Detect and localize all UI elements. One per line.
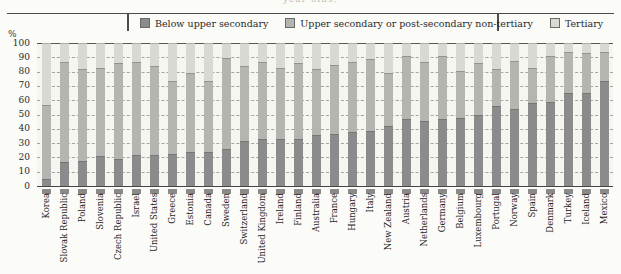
x-label-turkey: Turkey: [563, 193, 573, 265]
segment-upper-secondary-or-post-secondary-non-tertiary: [168, 82, 177, 155]
segment-below-upper-secondary: [564, 94, 573, 186]
bar-slot-estonia: [181, 43, 199, 186]
x-axis-line: [37, 186, 613, 187]
segment-below-upper-secondary: [420, 122, 429, 186]
stacked-bar-austria: [402, 43, 411, 186]
x-label-new-zealand: New Zealand: [383, 193, 393, 265]
stacked-bar-canada: [204, 43, 213, 186]
stacked-bar-israel: [132, 43, 141, 186]
segment-tertiary: [186, 43, 195, 74]
segment-tertiary: [564, 43, 573, 53]
segment-upper-secondary-or-post-secondary-non-tertiary: [150, 67, 159, 156]
segment-tertiary: [528, 43, 537, 69]
stacked-bar-spain: [528, 43, 537, 186]
bar-slot-greece: [163, 43, 181, 186]
x-label-korea: Korea: [41, 193, 51, 265]
legend: Below upper secondary Upper secondary or…: [140, 15, 603, 31]
bar-slot-iceland: [577, 43, 595, 186]
figure-educational-attainment-chart: year-olds, Below upper secondary Upper s…: [0, 0, 621, 274]
x-label-poland: Poland: [77, 193, 87, 265]
segment-tertiary: [276, 43, 285, 69]
legend-swatch-below-upper-secondary: [140, 18, 150, 28]
legend-label: Below upper secondary: [155, 18, 268, 29]
segment-tertiary: [474, 43, 483, 64]
segment-below-upper-secondary: [96, 157, 105, 186]
y-tick-label-20: 20: [2, 152, 30, 163]
segment-upper-secondary-or-post-secondary-non-tertiary: [204, 82, 213, 154]
x-label-mexico: Mexico: [599, 193, 609, 265]
segment-upper-secondary-or-post-secondary-non-tertiary: [456, 72, 465, 119]
bar-slot-israel: [127, 43, 145, 186]
legend-label: Tertiary: [565, 18, 603, 29]
bar-slot-netherlands: [415, 43, 433, 186]
segment-tertiary: [42, 43, 51, 106]
legend-item-upper-secondary: Upper secondary or post-secondary non-te…: [285, 18, 533, 29]
segment-below-upper-secondary: [528, 104, 537, 186]
bar-slot-luxembourg: [469, 43, 487, 186]
bar-slot-korea: [37, 43, 55, 186]
segment-tertiary: [96, 43, 105, 69]
segment-tertiary: [456, 43, 465, 72]
segment-upper-secondary-or-post-secondary-non-tertiary: [294, 64, 303, 140]
segment-below-upper-secondary: [546, 103, 555, 186]
x-label-israel: Israel: [131, 193, 141, 265]
top-rule: [7, 13, 614, 14]
segment-tertiary: [258, 43, 267, 63]
segment-tertiary: [132, 43, 141, 63]
x-label-slovenia: Slovenia: [95, 193, 105, 265]
bar-slot-spain: [523, 43, 541, 186]
segment-upper-secondary-or-post-secondary-non-tertiary: [240, 67, 249, 141]
segment-tertiary: [60, 43, 69, 63]
bar-slot-sweden: [217, 43, 235, 186]
segment-below-upper-secondary: [204, 153, 213, 186]
x-label-germany: Germany: [437, 193, 447, 265]
legend-item-tertiary: Tertiary: [550, 18, 603, 29]
y-tick-label-100: 100: [2, 38, 30, 49]
segment-tertiary: [348, 43, 357, 63]
segment-upper-secondary-or-post-secondary-non-tertiary: [60, 63, 69, 163]
stacked-bar-france: [330, 43, 339, 186]
segment-tertiary: [204, 43, 213, 82]
segment-upper-secondary-or-post-secondary-non-tertiary: [600, 53, 609, 82]
bar-slot-germany: [433, 43, 451, 186]
segment-upper-secondary-or-post-secondary-non-tertiary: [510, 62, 519, 111]
bar-slot-mexico: [595, 43, 613, 186]
bar-slot-slovak-republic: [55, 43, 73, 186]
segment-below-upper-secondary: [294, 140, 303, 186]
segment-below-upper-secondary: [456, 119, 465, 186]
x-label-finland: Finland: [293, 193, 303, 265]
y-tick-label-80: 80: [2, 66, 30, 77]
segment-below-upper-secondary: [276, 140, 285, 186]
segment-below-upper-secondary: [222, 150, 231, 186]
segment-upper-secondary-or-post-secondary-non-tertiary: [222, 59, 231, 151]
x-label-hungary: Hungary: [347, 193, 357, 265]
bar-slot-france: [325, 43, 343, 186]
stacked-bar-germany: [438, 43, 447, 186]
segment-tertiary: [420, 43, 429, 63]
x-label-denmark: Denmark: [545, 193, 555, 265]
x-label-united-kingdom: United Kingdom: [257, 193, 267, 265]
stacked-bar-turkey: [564, 43, 573, 186]
x-label-greece: Greece: [167, 193, 177, 265]
stacked-bar-estonia: [186, 43, 195, 186]
x-label-czech-republic: Czech Republic: [113, 193, 123, 265]
stacked-bar-norway: [510, 43, 519, 186]
bar-slot-austria: [397, 43, 415, 186]
y-tick-label-0: 0: [2, 181, 30, 192]
stacked-bar-denmark: [546, 43, 555, 186]
x-label-ireland: Ireland: [275, 193, 285, 265]
segment-tertiary: [384, 43, 393, 74]
x-label-france: France: [329, 193, 339, 265]
stacked-bar-mexico: [600, 43, 609, 186]
segment-below-upper-secondary: [582, 94, 591, 186]
segment-tertiary: [150, 43, 159, 67]
stacked-bar-poland: [78, 43, 87, 186]
segment-below-upper-secondary: [60, 163, 69, 186]
segment-tertiary: [438, 43, 447, 57]
bar-slot-turkey: [559, 43, 577, 186]
bar-slot-belgium: [451, 43, 469, 186]
segment-below-upper-secondary: [150, 156, 159, 186]
x-label-iceland: Iceland: [581, 193, 591, 265]
stacked-bar-united-kingdom: [258, 43, 267, 186]
stacked-bar-ireland: [276, 43, 285, 186]
